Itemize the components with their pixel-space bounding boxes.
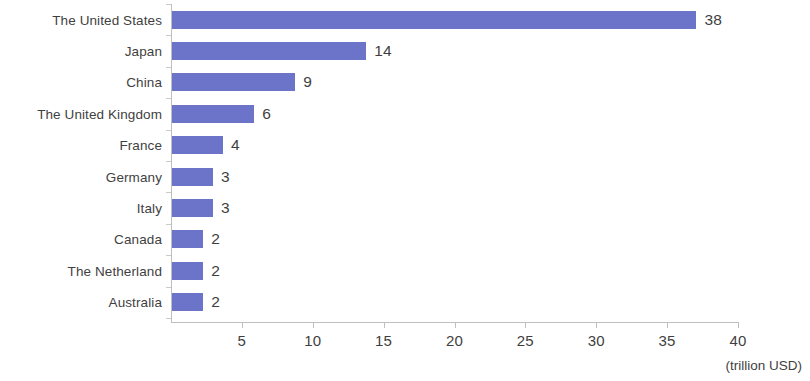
bar-chart: The United States38Japan14China9The Unit… [0, 0, 810, 381]
category-tick [166, 287, 171, 288]
bar [172, 262, 203, 280]
bar [172, 105, 254, 123]
category-tick [166, 255, 171, 256]
category-label: The United Kingdom [37, 106, 162, 121]
bar-value-label: 2 [211, 230, 220, 248]
category-tick [166, 35, 171, 36]
bar-value-label: 4 [231, 136, 240, 154]
table-row: China9 [0, 67, 810, 98]
value-tick-label: 40 [729, 332, 746, 349]
value-tick [242, 322, 243, 328]
value-tick-label: 15 [375, 332, 392, 349]
bar [172, 73, 295, 91]
axis-unit-label: (trillion USD) [725, 358, 802, 373]
bar-value-label: 3 [221, 168, 230, 186]
value-tick [667, 322, 668, 328]
table-row: The United States38 [0, 4, 810, 35]
bar [172, 230, 203, 248]
category-label: Australia [109, 295, 162, 310]
category-label: Italy [137, 201, 162, 216]
table-row: Australia2 [0, 287, 810, 318]
table-row: The United Kingdom6 [0, 98, 810, 129]
table-row: Italy3 [0, 192, 810, 223]
bar [172, 136, 223, 154]
category-tick [166, 130, 171, 131]
value-tick [738, 322, 739, 328]
table-row: The Netherland2 [0, 255, 810, 286]
bar-value-label: 14 [374, 42, 392, 60]
category-label: France [119, 138, 162, 153]
category-label: Japan [125, 44, 162, 59]
category-tick [166, 224, 171, 225]
table-row: Germany3 [0, 161, 810, 192]
bar-value-label: 2 [211, 293, 220, 311]
bar-value-label: 2 [211, 262, 220, 280]
bar-value-label: 38 [704, 11, 722, 29]
category-tick [166, 161, 171, 162]
category-label: The Netherland [68, 263, 162, 278]
category-tick [166, 98, 171, 99]
category-tick [166, 67, 171, 68]
table-row: France4 [0, 130, 810, 161]
bar [172, 293, 203, 311]
value-tick-label: 35 [659, 332, 676, 349]
category-tick [166, 4, 171, 5]
value-tick [596, 322, 597, 328]
category-tick [166, 318, 171, 319]
category-tick [166, 192, 171, 193]
plot-area: The United States38Japan14China9The Unit… [0, 0, 810, 381]
category-label: China [126, 75, 162, 90]
bar [172, 168, 213, 186]
bar-value-label: 3 [221, 199, 230, 217]
value-tick-label: 5 [238, 332, 247, 349]
table-row: Canada2 [0, 224, 810, 255]
value-tick-label: 10 [304, 332, 321, 349]
value-tick-label: 20 [446, 332, 463, 349]
bar [172, 42, 366, 60]
bar-value-label: 6 [262, 105, 271, 123]
table-row: Japan14 [0, 35, 810, 66]
bar [172, 11, 696, 29]
bar-value-label: 9 [303, 73, 312, 91]
value-tick [384, 322, 385, 328]
value-tick [455, 322, 456, 328]
value-tick-label: 25 [517, 332, 534, 349]
category-label: The United States [52, 12, 162, 27]
category-label: Germany [106, 169, 162, 184]
value-tick [525, 322, 526, 328]
value-tick [313, 322, 314, 328]
value-tick-label: 30 [588, 332, 605, 349]
category-label: Canada [114, 232, 162, 247]
bar [172, 199, 213, 217]
